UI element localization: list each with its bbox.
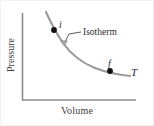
isotherm-pv-diagram: Pressure Volume i f T Isotherm <box>0 0 154 126</box>
point-i-marker <box>51 27 57 33</box>
y-axis-label: Pressure <box>5 38 16 72</box>
isotherm-leader-arrowhead <box>61 41 68 46</box>
temperature-label: T <box>131 66 137 78</box>
isotherm-annotation-label: Isotherm <box>83 27 117 37</box>
point-i-label: i <box>59 19 62 30</box>
x-axis-label: Volume <box>0 105 154 116</box>
y-axis-label-wrapper: Pressure <box>0 22 20 88</box>
point-f-label: f <box>108 58 111 69</box>
